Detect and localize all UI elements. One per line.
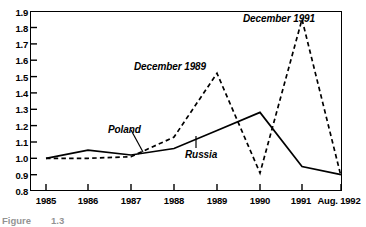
chart-lines <box>0 0 366 227</box>
figure-caption-number: 1.3 <box>51 215 64 226</box>
y-axis-ticks <box>30 28 37 175</box>
annotation-december-1989: December 1989 <box>134 62 206 72</box>
figure-container: 1.9 1.8 1.7 1.6 1.5 1.4 1.3 1.2 1.1 1.0 … <box>0 0 366 227</box>
annotation-russia: Russia <box>185 150 217 160</box>
annotation-poland: Poland <box>108 125 141 135</box>
annotation-december-1991: December 1991 <box>243 14 315 24</box>
figure-caption: Figure1.3 <box>2 215 64 226</box>
series-line-russia <box>46 112 341 174</box>
figure-caption-label: Figure <box>2 215 31 226</box>
x-axis-ticks <box>46 184 341 191</box>
